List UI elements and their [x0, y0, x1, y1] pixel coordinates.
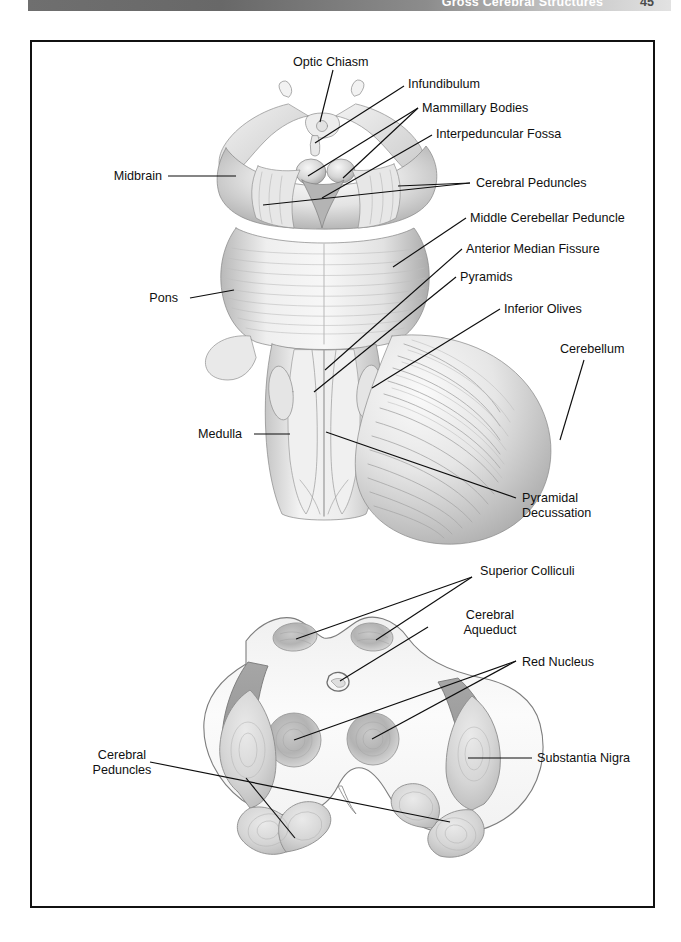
page-number: 45 — [640, 0, 654, 9]
page-title: Gross Cerebral Structures — [415, 0, 630, 9]
label-infundibulum: Infundibulum — [408, 77, 480, 92]
page-header: Gross Cerebral Structures 45 — [0, 0, 681, 12]
label-anterior-median-fissure: Anterior Median Fissure — [466, 242, 600, 257]
label-mammillary-bodies: Mammillary Bodies — [422, 101, 528, 116]
label-cerebellum: Cerebellum — [560, 342, 624, 357]
label-optic-chiasm: Optic Chiasm — [293, 55, 369, 70]
label-interpeduncular-fossa: Interpeduncular Fossa — [436, 127, 561, 142]
label-cerebral-peduncles: Cerebral Peduncles — [476, 176, 587, 191]
label-pons: Pons — [84, 291, 178, 306]
label-inferior-olives: Inferior Olives — [504, 302, 582, 317]
label-substantia-nigra: Substantia Nigra — [537, 751, 630, 766]
label-cerebral-peduncles-lower: Cerebral Peduncles — [66, 748, 178, 778]
label-pyramids: Pyramids — [460, 270, 512, 285]
label-superior-colliculi: Superior Colliculi — [480, 564, 575, 579]
label-cerebral-aqueduct: Cerebral Aqueduct — [434, 608, 546, 638]
label-midbrain: Midbrain — [56, 169, 162, 184]
label-red-nucleus: Red Nucleus — [522, 655, 594, 670]
label-pyramidal-decussation: Pyramidal Decussation — [522, 491, 591, 521]
label-middle-cerebellar-peduncle: Middle Cerebellar Peduncle — [470, 211, 625, 226]
label-medulla: Medulla — [140, 427, 242, 442]
